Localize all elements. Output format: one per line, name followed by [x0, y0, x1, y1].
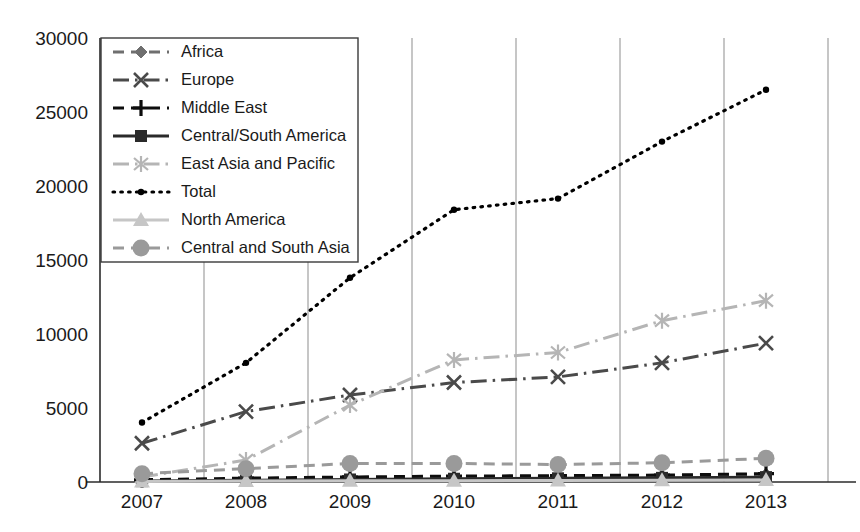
x-tick-label: 2012 [641, 491, 683, 512]
y-tick-label: 30000 [35, 28, 88, 49]
marker-dot [555, 195, 561, 201]
marker-circle [342, 455, 359, 472]
legend-label: Europe [181, 70, 234, 88]
legend-label: Central and South Asia [181, 238, 351, 256]
marker-circle [550, 456, 567, 473]
data-point-5-2 [347, 275, 353, 281]
series-line [142, 301, 766, 477]
marker-circle [758, 450, 775, 467]
x-tick-label: 2011 [538, 491, 579, 512]
data-point-7-2 [342, 455, 359, 472]
marker-circle [133, 240, 150, 257]
y-tick-label: 0 [77, 472, 88, 493]
marker-dot [659, 138, 665, 144]
data-point-7-4 [550, 456, 567, 473]
legend-label: Middle East [181, 98, 268, 116]
x-tick-label: 2013 [745, 491, 787, 512]
marker-dot [243, 360, 249, 366]
data-point-7-3 [446, 455, 463, 472]
marker-dot [139, 419, 145, 425]
marker-dot [347, 275, 353, 281]
legend-label: Total [181, 182, 216, 200]
data-point-7-5 [654, 454, 671, 471]
data-point-5-4 [555, 195, 561, 201]
y-tick-label: 5000 [46, 398, 88, 419]
data-point-4-2 [343, 397, 357, 413]
x-tick-label: 2007 [121, 491, 163, 512]
data-point-legend-5 [138, 189, 144, 195]
data-point-7-0 [134, 465, 151, 482]
marker-x [759, 336, 773, 350]
chart-canvas: 0500010000150002000025000300002007200820… [0, 0, 860, 532]
y-axis-ticks: 050001000015000200002500030000 [35, 28, 88, 493]
marker-dot [138, 189, 144, 195]
x-tick-label: 2009 [329, 491, 371, 512]
line-chart: 0500010000150002000025000300002007200820… [0, 0, 860, 532]
data-point-5-6 [763, 87, 769, 93]
y-tick-label: 15000 [35, 250, 88, 271]
legend-label: Africa [181, 42, 224, 60]
x-tick-label: 2008 [225, 491, 267, 512]
data-point-5-0 [139, 419, 145, 425]
data-point-5-5 [659, 138, 665, 144]
series-north-america [134, 472, 774, 487]
y-tick-label: 20000 [35, 176, 88, 197]
legend-label: East Asia and Pacific [181, 154, 335, 172]
data-point-7-1 [238, 460, 255, 477]
marker-dot [763, 87, 769, 93]
marker-circle [238, 460, 255, 477]
y-tick-label: 10000 [35, 324, 88, 345]
data-point-5-1 [243, 360, 249, 366]
x-axis-ticks: 2007200820092010201120122013 [121, 491, 787, 512]
y-tick-label: 25000 [35, 102, 88, 123]
legend-label: North America [181, 210, 286, 228]
marker-asterisk [343, 397, 357, 413]
data-point-5-3 [451, 206, 457, 212]
legend: AfricaEuropeMiddle EastCentral/South Ame… [101, 38, 358, 262]
data-point-legend-7 [133, 240, 150, 257]
legend-label: Central/South America [181, 126, 347, 144]
x-tick-label: 2010 [433, 491, 475, 512]
data-point-1-6 [759, 336, 773, 350]
marker-circle [446, 455, 463, 472]
marker-circle [134, 465, 151, 482]
data-point-7-6 [758, 450, 775, 467]
marker-square [135, 130, 147, 142]
marker-dot [451, 206, 457, 212]
data-point-legend-3 [135, 130, 147, 142]
marker-circle [654, 454, 671, 471]
